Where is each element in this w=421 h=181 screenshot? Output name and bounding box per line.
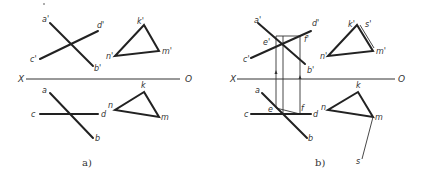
label-s: s (356, 157, 360, 166)
label-s-prime: s' (365, 20, 371, 29)
line-cd-front (251, 31, 311, 58)
label-e: e (268, 105, 273, 114)
label-b: b (95, 134, 100, 143)
label-m-prime: m' (162, 47, 172, 56)
triangle-kmn-front (115, 25, 159, 56)
label-a-prime: a' (254, 16, 261, 25)
line-ab-top (50, 93, 93, 138)
caption-a: a) (82, 157, 92, 168)
figure-a: a' d' c' b' k' n' m' X O a c d b k n m a… (17, 3, 192, 168)
label-c: c (244, 110, 249, 119)
label-b: b (308, 134, 313, 143)
label-k: k (356, 81, 361, 90)
triangle-kmn-top (115, 92, 159, 117)
triangle-kmn-top (328, 92, 373, 117)
label-e-prime: e' (263, 38, 270, 47)
dot-mark (43, 3, 45, 5)
triangle-kmn-front (328, 25, 373, 56)
label-c-prime: c' (30, 55, 37, 64)
arrow-up-icon (275, 70, 278, 74)
label-d: d (101, 110, 107, 119)
label-a: a (255, 86, 260, 95)
label-f: f (301, 104, 305, 113)
label-n: n (108, 101, 113, 110)
label-m: m (375, 113, 383, 122)
label-d: d (313, 110, 319, 119)
label-m-prime: m' (376, 47, 386, 56)
label-b-prime: b' (307, 66, 314, 75)
figure-b: a' d' e' f' c' b' k' s' n' m' X O a c e … (229, 16, 405, 168)
axis-label-o: O (185, 74, 192, 84)
label-a-prime: a' (42, 15, 49, 24)
projection-diagram: a' d' c' b' k' n' m' X O a c d b k n m a… (0, 0, 421, 181)
label-n: n (321, 103, 326, 112)
label-c: c (31, 110, 36, 119)
label-d-prime: d' (97, 21, 104, 30)
caption-b: b) (315, 157, 325, 168)
label-k-prime: k' (137, 17, 144, 26)
line-ms-top (362, 117, 373, 159)
label-n-prime: n' (106, 52, 113, 61)
label-a: a (42, 86, 47, 95)
label-c-prime: c' (243, 55, 250, 64)
axis-label-x: X (229, 74, 237, 84)
axis-label-o: O (398, 74, 405, 84)
label-m: m (161, 113, 169, 122)
label-b-prime: b' (94, 64, 101, 73)
label-n-prime: n' (320, 52, 327, 61)
label-f-prime: f' (304, 35, 309, 44)
label-d-prime: d' (312, 19, 319, 28)
arrow-up-icon (299, 75, 302, 79)
axis-label-x: X (17, 74, 25, 84)
label-k: k (141, 81, 146, 90)
label-k-prime: k' (348, 20, 355, 29)
line-cd-front (40, 31, 98, 59)
